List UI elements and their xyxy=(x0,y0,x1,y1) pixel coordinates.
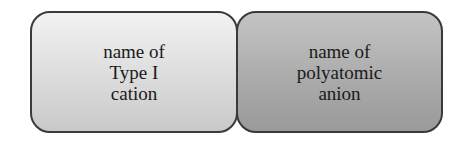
box-label-line: Type I xyxy=(103,62,165,83)
box-label: name of polyatomic anion xyxy=(297,41,382,104)
box-label-line: name of xyxy=(103,41,165,62)
box-label-line: anion xyxy=(297,83,382,104)
box-label: name of Type I cation xyxy=(103,41,165,104)
box-label-line: name of xyxy=(297,41,382,62)
box-label-line: cation xyxy=(103,83,165,104)
box-label-line: polyatomic xyxy=(297,62,382,83)
type-i-cation-box: name of Type I cation xyxy=(30,11,238,133)
polyatomic-anion-box: name of polyatomic anion xyxy=(236,11,443,133)
